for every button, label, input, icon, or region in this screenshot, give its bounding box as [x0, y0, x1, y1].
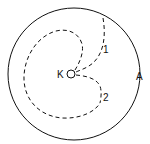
- path-1: [76, 18, 104, 72]
- trajectory-diagram: K A 1 2: [0, 0, 150, 144]
- label-k: K: [57, 69, 64, 80]
- label-path-2: 2: [103, 92, 109, 103]
- path-2: [76, 75, 101, 103]
- label-path-1: 1: [103, 44, 109, 55]
- label-a: A: [136, 71, 143, 82]
- center-point-k: [67, 70, 75, 78]
- diagram-canvas: K A 1 2: [0, 0, 150, 144]
